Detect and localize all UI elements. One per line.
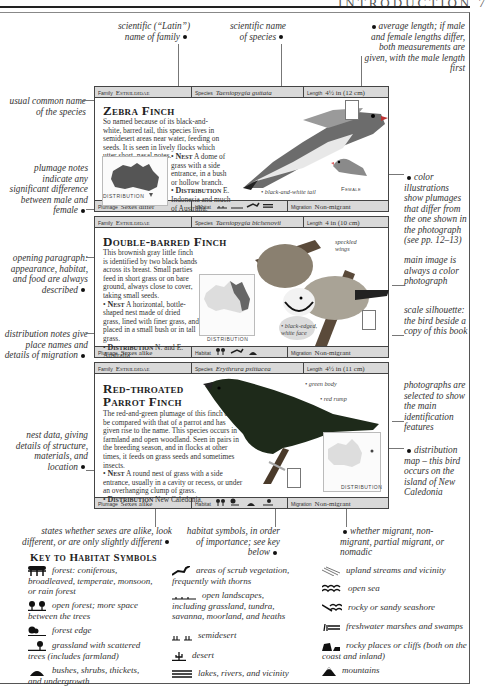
callout-scale: scale silhouette: the bird beside a copy… xyxy=(404,305,470,337)
nest-note: • Nest A dome of grass with a side entra… xyxy=(171,153,231,213)
leader-line xyxy=(392,285,404,286)
description: This brownish gray little finch is ident… xyxy=(103,249,199,361)
family-value: Estrildidae xyxy=(116,219,150,227)
species-card-red-throated-parrot-finch: FamilyEstrildidae SpeciesErythrura psitt… xyxy=(94,362,389,509)
key-item-open-sea: open sea xyxy=(322,583,470,594)
australia-map-icon xyxy=(200,275,254,321)
annotation-green-body: • green body xyxy=(305,380,337,387)
open-sea-icon xyxy=(322,584,342,594)
key-item-open-landscape: open landscapes, including grassland, tu… xyxy=(172,590,297,622)
female-illustration xyxy=(331,154,369,180)
leader-line xyxy=(155,509,156,527)
family-label: Family xyxy=(98,220,113,226)
leader-line xyxy=(346,509,347,527)
distribution-map xyxy=(323,432,381,492)
family-label: Family xyxy=(98,90,113,96)
leader-line xyxy=(392,335,404,336)
species-value: Erythrura psittacea xyxy=(216,365,271,373)
callout-habitat: habitat symbols, in order of importance;… xyxy=(178,526,280,558)
key-item-forest-edge: forest edge xyxy=(28,625,153,636)
callout-color-illustrations: color illustrations show plumages that d… xyxy=(404,172,470,246)
key-item-forest: forest: coniferous, broadleaved, tempera… xyxy=(28,565,153,597)
key-item-grassland-trees: grassland with scattered trees (includes… xyxy=(28,640,153,661)
rocky-cliffs-icon xyxy=(322,641,340,651)
length-label: Length xyxy=(307,220,322,226)
info-bar-top: FamilyEstrildidae SpeciesTaeniopygia gut… xyxy=(95,87,388,98)
coniferous-forest-icon xyxy=(28,566,46,576)
species-title: Zebra Finch xyxy=(103,104,175,117)
desert-icon xyxy=(172,651,186,661)
family-value: Estrildidae xyxy=(116,365,150,373)
card-body: Red-throatedParrot Finch The red-and-gre… xyxy=(95,374,388,497)
key-item-semidesert: semidesert xyxy=(172,630,297,641)
species-value: Taeniopygia guttata xyxy=(216,89,272,97)
map-label: DISTRIBUTION xyxy=(103,193,144,199)
migration-value: Non-migrant xyxy=(315,203,351,211)
annotation-female: Female xyxy=(341,186,361,192)
key-item-seashore: rocky or sandy seashore xyxy=(322,602,470,613)
leader-line xyxy=(178,44,179,86)
habitat-icons xyxy=(215,347,265,355)
annotation-speckled-wings: speckled wings xyxy=(335,238,365,252)
forest-edge-icon xyxy=(28,626,46,636)
callout-species: scientific name of species xyxy=(226,21,286,42)
callout-main-image: main image is always a color photograph xyxy=(404,255,470,287)
key-item-rocky-cliffs: rocky places or cliffs (both on the coas… xyxy=(322,640,470,661)
annotation-tail: • black-and-white tail xyxy=(261,188,316,195)
callout-plumage: plumage notes indicate any significant d… xyxy=(8,163,88,216)
annotation-red-rump: • red rump xyxy=(320,395,347,402)
map-label: DISTRIBUTION xyxy=(341,484,382,490)
key-item-open-forest: open forest; more space between the tree… xyxy=(28,600,153,621)
family-value: Estrildidae xyxy=(116,89,150,97)
distribution-map xyxy=(199,274,255,336)
leader-line xyxy=(361,56,362,86)
open-forest-icon xyxy=(28,601,46,611)
species-label: Species xyxy=(195,366,213,372)
callout-distribution-map: distribution map – this bird occurs on t… xyxy=(404,445,470,498)
callout-common-name: usual common name of the species xyxy=(8,96,86,117)
key-item-upland-streams: upland streams and vicinity xyxy=(322,565,470,576)
key-item-lakes: lakes, rivers, and vicinity xyxy=(172,668,297,679)
leader-line xyxy=(392,421,404,422)
species-card-zebra-finch: FamilyEstrildidae SpeciesTaeniopygia gut… xyxy=(94,86,389,212)
species-label: Species xyxy=(195,90,213,96)
scale-silhouette-icon xyxy=(362,310,376,330)
species-value: Taeniopygia bichenovii xyxy=(216,219,281,227)
scale-silhouette-icon xyxy=(287,468,301,488)
key-item-mountains: mountains xyxy=(322,665,470,676)
australia-map-icon xyxy=(324,433,380,477)
info-bar-top: FamilyEstrildidae SpeciesErythrura psitt… xyxy=(95,363,388,374)
species-card-double-barred-finch: FamilyEstrildidae SpeciesTaeniopygia bic… xyxy=(94,216,389,358)
info-bar-top: FamilyEstrildidae SpeciesTaeniopygia bic… xyxy=(95,217,388,228)
callout-migrant: whether migrant, non-migrant, partial mi… xyxy=(340,526,462,558)
marsh-icon xyxy=(322,622,340,632)
length-value: 4½ in (12 cm) xyxy=(325,89,365,97)
callout-distribution: distribution notes give place names and … xyxy=(4,329,88,361)
migration-label: Migration xyxy=(291,501,312,507)
species-title: Double-barred Finch xyxy=(103,235,227,248)
callout-length: average length; if male and female lengt… xyxy=(355,21,465,74)
card-body: Zebra Finch So named because of its blac… xyxy=(95,98,388,200)
leader-line xyxy=(275,509,276,527)
seashore-icon xyxy=(322,603,342,613)
callout-nest: nest data, giving details of structure, … xyxy=(4,430,88,472)
upland-streams-icon xyxy=(322,566,340,576)
scrub-icon xyxy=(172,566,190,576)
card-body: Double-barred Finch This brownish gray l… xyxy=(95,228,388,346)
grassland-trees-icon xyxy=(28,641,46,651)
mountains-icon xyxy=(322,666,336,676)
key-title: Key to Habitat Symbols xyxy=(30,551,157,563)
callout-family: scientific (“Latin”) name of family xyxy=(112,21,190,42)
length-value: 4½ in (11 cm) xyxy=(325,365,364,373)
leader-line xyxy=(281,44,282,86)
length-label: Length xyxy=(307,90,322,96)
length-value: 4 in (10 cm) xyxy=(325,219,359,227)
key-item-desert: desert xyxy=(172,650,297,661)
migration-label: Migration xyxy=(291,350,312,356)
migration-value: Non-migrant xyxy=(315,349,351,357)
map-label: DISTRIBUTION xyxy=(207,336,248,342)
family-label: Family xyxy=(98,366,113,372)
header-rule xyxy=(0,6,470,8)
species-label: Species xyxy=(195,220,213,226)
callout-opening: opening paragraph: appearance, habitat, … xyxy=(4,253,88,295)
